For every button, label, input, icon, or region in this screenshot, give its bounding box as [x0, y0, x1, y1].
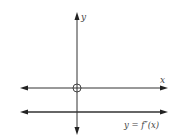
y-axis-label: y — [80, 12, 87, 22]
second-derivative-line — [20, 110, 168, 115]
curve-right-arrow-icon — [160, 110, 168, 115]
curve-label: y = f″(x) — [123, 120, 159, 130]
y-axis — [75, 12, 80, 135]
curve-left-arrow-icon — [20, 110, 28, 115]
x-axis-left-arrow-icon — [20, 86, 28, 91]
x-axis-label: x — [160, 75, 165, 85]
y-axis-up-arrow-icon — [75, 12, 80, 20]
x-axis-right-arrow-icon — [160, 86, 168, 91]
y-axis-down-arrow-icon — [75, 127, 80, 135]
graph-canvas: y x y = f″(x) — [0, 0, 177, 139]
x-axis — [20, 86, 168, 91]
